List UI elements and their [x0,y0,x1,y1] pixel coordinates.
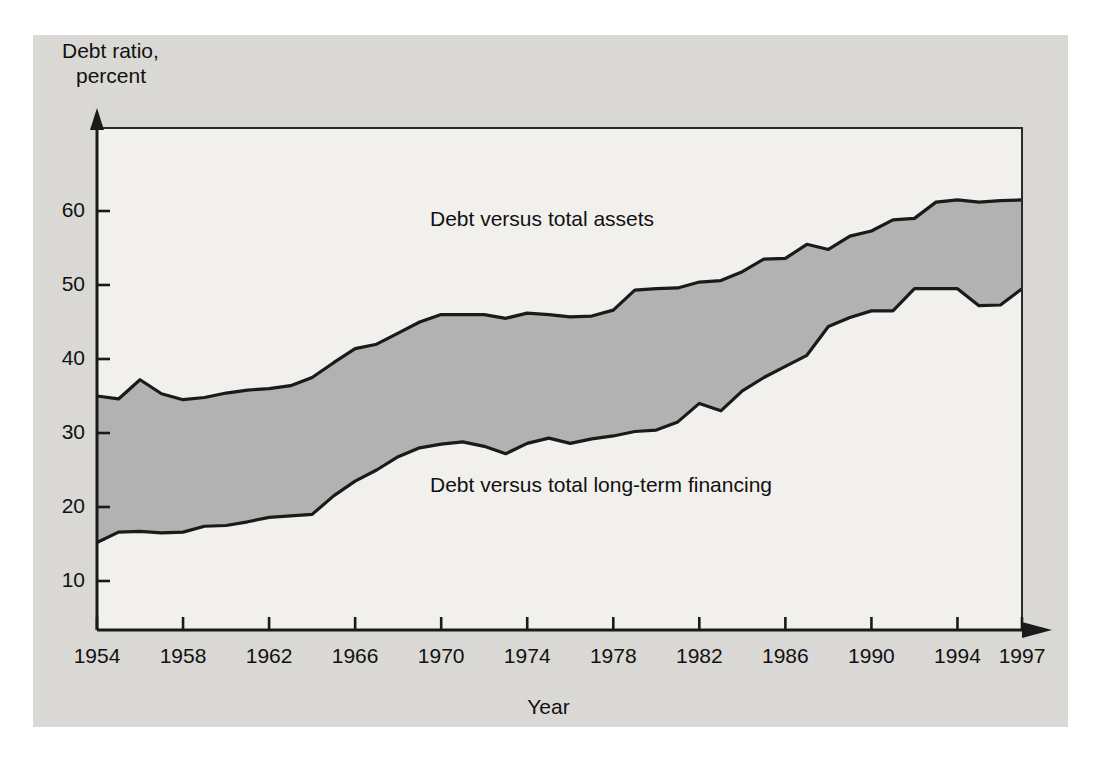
y-axis-tick-label: 50 [39,272,85,296]
x-axis-tick-label: 1997 [987,644,1057,668]
y-axis-title-line2: percent [62,63,146,88]
x-axis-tick-label: 1982 [664,644,734,668]
x-axis-title: Year [0,694,1097,719]
lower-series-label: Debt versus total long-term financing [430,473,772,497]
x-axis-tick-label: 1974 [492,644,562,668]
figure-root: Debt ratio,percent Year 102030405060 195… [0,0,1097,770]
x-axis-tick-label: 1970 [406,644,476,668]
x-axis-tick-label: 1966 [320,644,390,668]
y-axis-title-line1: Debt ratio, [62,39,159,62]
y-axis-arrowhead [90,108,104,130]
x-axis-tick-label: 1962 [234,644,304,668]
y-axis-tick-label: 60 [39,198,85,222]
y-axis-tick-label: 30 [39,420,85,444]
x-axis-tick-label: 1994 [922,644,992,668]
x-axis-tick-label: 1990 [836,644,906,668]
y-axis-tick-label: 10 [39,568,85,592]
x-axis-tick-label: 1978 [578,644,648,668]
x-axis-arrowhead [1022,622,1052,638]
x-axis-tick-label: 1986 [750,644,820,668]
y-axis-tick-label: 20 [39,494,85,518]
y-axis-tick-label: 40 [39,346,85,370]
y-axis-title: Debt ratio,percent [62,38,159,88]
x-axis-tick-label: 1954 [62,644,132,668]
x-axis-tick-label: 1958 [148,644,218,668]
upper-series-label: Debt versus total assets [430,207,654,231]
